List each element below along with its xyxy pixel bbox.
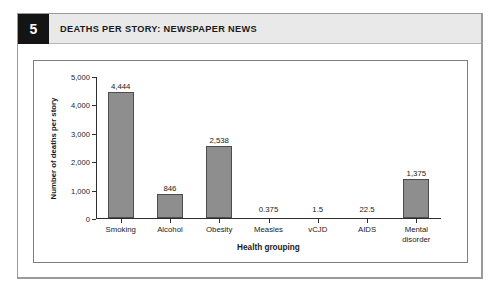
x-tick-label: vCJD <box>308 225 327 235</box>
y-tick-label: 2,000 <box>71 158 90 167</box>
chart-axes: 01,0002,0003,0004,0005,000 4,4448462,538… <box>96 77 441 219</box>
bar-value-label: 4,444 <box>111 82 131 91</box>
bar: 1,375 <box>403 179 429 218</box>
bar-value-label: 1,375 <box>407 169 427 178</box>
y-axis-line <box>96 77 97 219</box>
x-tick-label: Measles <box>254 225 283 235</box>
bar-value-label: 22.5 <box>359 205 374 214</box>
y-tick-mark <box>92 134 96 135</box>
bar: 846 <box>157 194 183 218</box>
y-tick-label: 4,000 <box>71 101 90 110</box>
bar: 2,538 <box>206 146 232 218</box>
y-tick-mark <box>92 219 96 220</box>
x-tick-mark <box>318 219 319 223</box>
x-axis-title: Health grouping <box>96 243 441 252</box>
chart-plot-frame: Number of deaths per story 01,0002,0003,… <box>33 60 468 263</box>
y-tick-label: 3,000 <box>71 129 90 138</box>
y-tick-label: 0 <box>86 215 90 224</box>
x-tick-label: Smoking <box>105 225 135 235</box>
figure-header: 5 DEATHS PER STORY: NEWSPAPER NEWS <box>18 14 481 44</box>
x-tick-label: Alcohol <box>157 225 183 235</box>
y-tick-mark <box>92 77 96 78</box>
bar-value-label: 2,538 <box>209 136 229 145</box>
x-tick-mark <box>269 219 270 223</box>
figure-title: DEATHS PER STORY: NEWSPAPER NEWS <box>60 14 257 44</box>
figure-card: 5 DEATHS PER STORY: NEWSPAPER NEWS Numbe… <box>17 13 483 279</box>
y-axis-title: Number of deaths per story <box>48 77 60 219</box>
x-tick-mark <box>219 219 220 223</box>
x-tick-label: AIDS <box>358 225 376 235</box>
bar-value-label: 1.5 <box>312 205 323 214</box>
y-tick-mark <box>92 162 96 163</box>
figure-number-badge: 5 <box>18 14 49 44</box>
x-tick-mark <box>121 219 122 223</box>
x-tick-label: Mental disorder <box>402 225 430 244</box>
x-tick-label: Obesity <box>206 225 232 235</box>
y-tick-label: 1,000 <box>71 186 90 195</box>
y-tick-mark <box>92 191 96 192</box>
x-tick-mark <box>416 219 417 223</box>
y-axis-title-text: Number of deaths per story <box>50 97 59 199</box>
bar-value-label: 846 <box>163 184 176 193</box>
bar-value-label: 0.375 <box>259 205 279 214</box>
x-tick-mark <box>170 219 171 223</box>
x-tick-mark <box>367 219 368 223</box>
y-tick-mark <box>92 105 96 106</box>
bar: 4,444 <box>108 92 134 218</box>
y-tick-label: 5,000 <box>71 73 90 82</box>
